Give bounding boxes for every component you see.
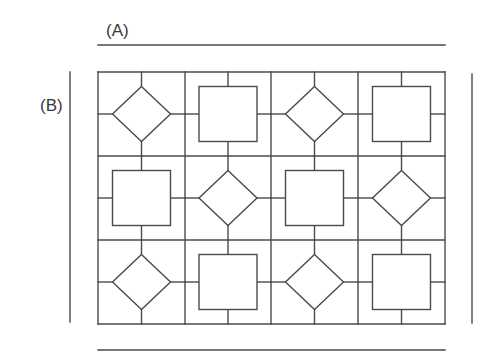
diamond-tile — [199, 171, 257, 226]
square-tile — [373, 87, 431, 142]
diamond-tile — [113, 87, 171, 142]
square-tile — [373, 255, 431, 310]
square-tile — [199, 87, 257, 142]
square-tile — [113, 171, 171, 226]
square-tile — [199, 255, 257, 310]
tile-pattern-diagram — [0, 0, 503, 357]
square-tile — [286, 171, 344, 226]
diamond-tile — [286, 255, 344, 310]
diamond-tile — [286, 87, 344, 142]
diamond-tile — [373, 171, 431, 226]
diamond-tile — [113, 255, 171, 310]
